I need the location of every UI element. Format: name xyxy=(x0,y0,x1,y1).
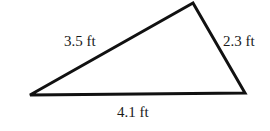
side-label-bottom: 4.1 ft xyxy=(117,104,149,120)
triangle-diagram: 3.5 ft 2.3 ft 4.1 ft xyxy=(0,0,270,131)
triangle-shape xyxy=(30,3,245,95)
side-label-right: 2.3 ft xyxy=(223,33,255,49)
side-label-left: 3.5 ft xyxy=(64,33,96,49)
